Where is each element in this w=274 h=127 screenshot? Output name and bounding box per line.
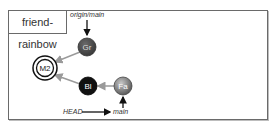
svg-text:Fa: Fa xyxy=(118,82,128,91)
main-ref-label: main xyxy=(113,108,128,115)
origin-main-ref-label: origin/main xyxy=(70,11,104,19)
head-ref-label: HEAD xyxy=(63,108,82,115)
commit-node-m2[interactable]: M2 xyxy=(33,56,57,80)
svg-text:Bl: Bl xyxy=(84,82,91,91)
edge-bl-to-m2 xyxy=(55,75,80,84)
svg-text:Gr: Gr xyxy=(83,43,92,52)
commit-node-bl[interactable]: Bl xyxy=(79,77,97,95)
commit-node-gr[interactable]: Gr xyxy=(78,38,96,56)
commit-graph: origin/main Gr M2 Bl Fa HEAD main xyxy=(0,0,274,127)
commit-node-fa[interactable]: Fa xyxy=(114,77,132,95)
svg-text:M2: M2 xyxy=(39,64,51,73)
edge-gr-to-m2 xyxy=(55,52,80,62)
